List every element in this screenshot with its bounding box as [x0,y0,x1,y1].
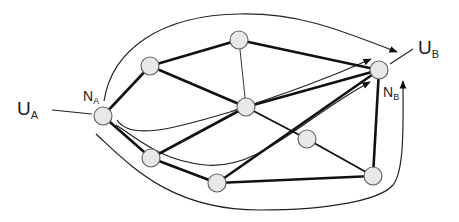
network-diagram [0,0,459,222]
node-top [230,31,248,49]
edge-bottom-br [217,176,373,183]
edge-rc-br [307,139,373,176]
label-ub-main: U [418,37,432,58]
label-na: NA [83,88,99,106]
edge-br-nb [373,70,379,176]
node-nb [370,61,388,79]
label-na-main: N [83,88,93,104]
edge-ll-center [151,107,246,158]
input-line-ua [52,110,92,114]
node-center [237,98,255,116]
label-ub-sub: B [432,48,439,60]
node-right-center [298,130,316,148]
label-nb-main: N [383,84,393,100]
edge-top-center [239,40,246,107]
edge-center-rc [246,107,307,139]
label-nb-sub: B [393,92,399,102]
edge-tl-center [150,66,246,107]
label-na-sub: A [93,96,99,106]
label-nb: NB [383,84,399,102]
edge-tl-top [150,40,239,66]
node-top-left [141,57,159,75]
node-lower-left [142,149,160,167]
edge-top-nb [239,40,379,70]
node-na [94,107,112,125]
node-bottom-right [364,167,382,185]
edge-na-tl [103,66,150,116]
label-ua-main: U [17,98,31,119]
label-ub: UB [418,38,439,60]
label-ua: UA [17,99,38,121]
label-ua-sub: A [31,109,38,121]
node-bottom [208,174,226,192]
